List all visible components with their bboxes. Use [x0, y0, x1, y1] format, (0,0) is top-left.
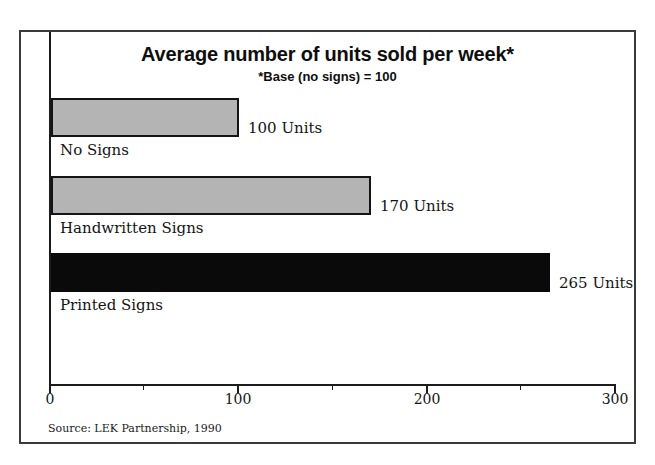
x-tick-label: 100: [208, 391, 268, 407]
bar-value-label: 265 Units: [559, 274, 633, 292]
x-tick-label: 300: [585, 391, 645, 407]
x-minor-tick: [332, 386, 333, 390]
bar-category-label: Handwritten Signs: [60, 220, 204, 237]
bar-printed-signs: [51, 253, 550, 292]
bar-no-signs: [51, 98, 239, 137]
chart-subtitle: *Base (no signs) = 100: [21, 69, 634, 84]
x-tick-label: 0: [20, 391, 80, 407]
x-minor-tick: [520, 386, 521, 390]
bar-category-label: No Signs: [60, 142, 129, 159]
bar-value-label: 170 Units: [380, 197, 454, 215]
bar-row: 100 Units No Signs: [21, 98, 634, 137]
chart-image: Average number of units sold per week* *…: [0, 0, 655, 465]
x-minor-tick: [143, 386, 144, 390]
bar-category-label: Printed Signs: [60, 297, 163, 314]
bar-value-label: 100 Units: [248, 119, 322, 137]
bar-handwritten-signs: [51, 176, 371, 215]
x-tick-label: 200: [397, 391, 457, 407]
chart-frame: Average number of units sold per week* *…: [19, 30, 636, 444]
chart-title: Average number of units sold per week*: [21, 43, 634, 66]
source-note: Source: LEK Partnership, 1990: [48, 422, 222, 435]
bar-row: 265 Units Printed Signs: [21, 253, 634, 292]
bar-row: 170 Units Handwritten Signs: [21, 176, 634, 215]
